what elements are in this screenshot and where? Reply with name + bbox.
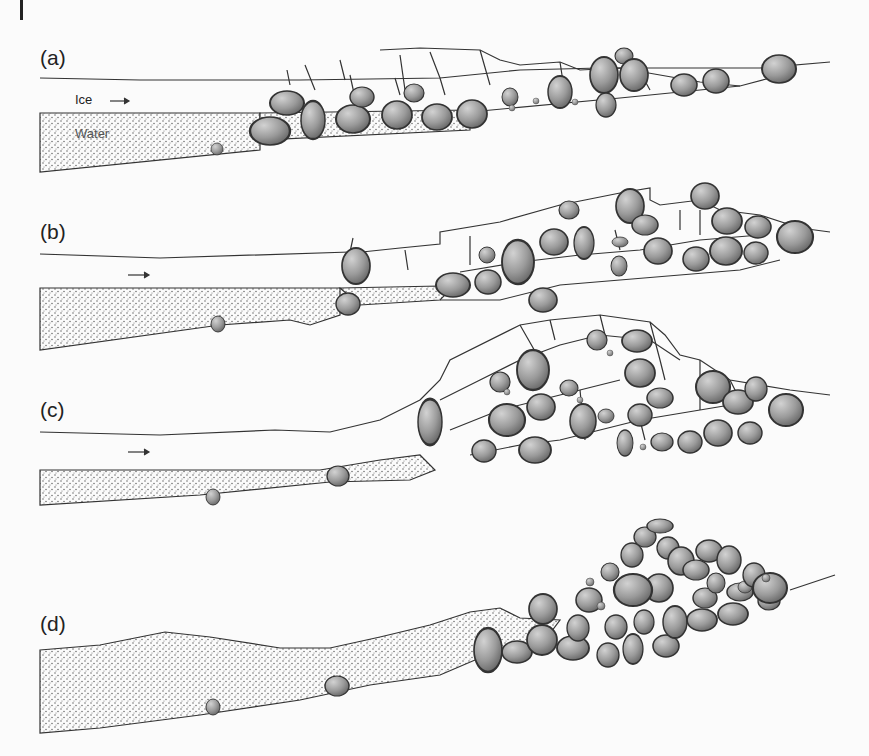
panel-label-a: (a)	[40, 46, 66, 70]
panel-d-boulders	[474, 519, 787, 672]
panel-label-b: (b)	[40, 220, 66, 244]
panel-label-c: (c)	[40, 398, 65, 422]
panel-b-drawing	[40, 188, 830, 350]
ice-push-figure: (a) Ice Water (b) (c) (d)	[0, 0, 869, 756]
panel-label-d: (d)	[40, 612, 66, 636]
ice-label: Ice	[75, 92, 92, 107]
figure-drawing	[0, 0, 869, 756]
panel-a-boulders	[211, 48, 796, 155]
water-label: Water	[75, 126, 109, 141]
